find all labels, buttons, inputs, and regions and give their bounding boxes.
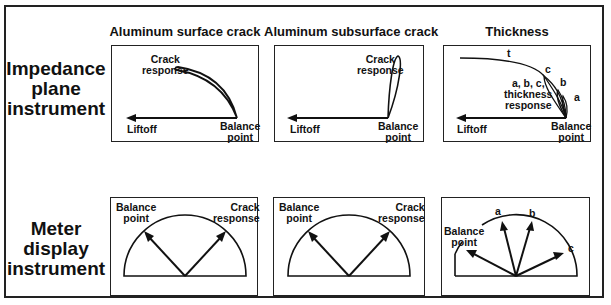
row-label-line: instrument — [6, 99, 106, 119]
liftoff-label: Liftoff — [290, 124, 320, 135]
balance-point-label: Balance point — [220, 121, 260, 143]
label-line: point — [444, 237, 484, 248]
label-line: point — [116, 213, 156, 224]
column-title-surface: Aluminum surface crack — [100, 24, 270, 39]
crack-response-label: Crack response — [357, 54, 404, 76]
t-label: t — [507, 48, 511, 59]
balance-point-label: Balance point — [551, 121, 591, 143]
a-label: a — [495, 206, 501, 217]
c-label: c — [568, 243, 574, 254]
column-title-thickness: Thickness — [432, 24, 602, 39]
row-label-line: Meter — [6, 219, 106, 239]
a-label: a — [574, 92, 580, 103]
crack-response-label: Crack response — [142, 54, 189, 76]
row-label-impedance: Impedance plane instrument — [6, 59, 106, 119]
balance-point-label: Balance point — [378, 121, 418, 143]
label-line: point — [378, 132, 418, 143]
impedance-panel-thickness: t c b a a, b, c, thickness response Lift… — [443, 45, 591, 142]
liftoff-label: Liftoff — [457, 124, 487, 135]
column-title-subsurface: Aluminum subsurface crack — [264, 24, 434, 39]
label-line: point — [551, 132, 591, 143]
impedance-panel-subsurface: Crack response Liftoff Balance point — [274, 45, 424, 142]
thickness-response-label: a, b, c, thickness response — [504, 78, 552, 111]
balance-point-label: Balance point — [116, 202, 156, 224]
meter-panel-subsurface: Balance point Crack response — [273, 197, 425, 296]
balance-point-label: Balance point — [279, 202, 319, 224]
row-label-line: display — [6, 239, 106, 259]
meter-panel-thickness: Balance point a b c — [441, 197, 590, 296]
liftoff-label: Liftoff — [127, 124, 157, 135]
label-line: point — [279, 213, 319, 224]
label-line: response — [213, 213, 260, 224]
impedance-panel-surface: Crack response Liftoff Balance point — [111, 45, 259, 142]
label-line: response — [378, 213, 425, 224]
label-line: response — [142, 65, 189, 76]
b-label: b — [529, 208, 535, 219]
label-line: point — [220, 132, 260, 143]
balance-point-label: Balance point — [444, 226, 484, 248]
row-label-meter: Meter display instrument — [6, 219, 106, 279]
meter-panel-surface: Balance point Crack response — [110, 197, 258, 296]
row-label-line: plane — [6, 79, 106, 99]
crack-response-label: Crack response — [378, 202, 425, 224]
label-line: response — [357, 65, 404, 76]
label-line: response — [504, 100, 552, 111]
b-label: b — [560, 77, 566, 88]
row-label-line: instrument — [6, 259, 106, 279]
c-label: c — [545, 64, 551, 75]
crack-response-label: Crack response — [213, 202, 260, 224]
row-label-line: Impedance — [6, 59, 106, 79]
